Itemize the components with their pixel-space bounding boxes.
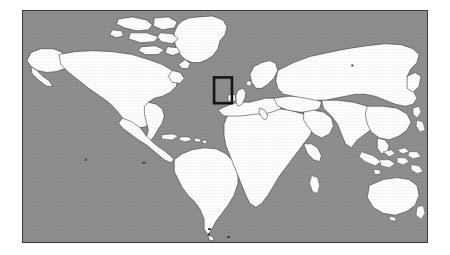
- world-map-frame: [22, 10, 428, 243]
- world-map-canvas: [23, 11, 427, 242]
- map-figure-page: World map with highlighted region Britis…: [0, 0, 450, 255]
